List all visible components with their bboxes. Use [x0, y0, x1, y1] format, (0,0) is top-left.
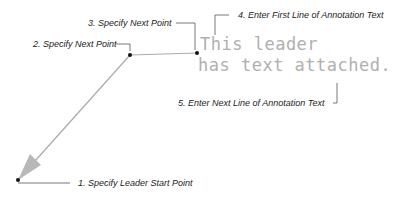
- start-point: [16, 178, 20, 182]
- callout-line-3: [176, 23, 195, 50]
- step-3-label: 3. Specify Next Point: [88, 18, 172, 28]
- leader-segment-2: [130, 53, 197, 55]
- callout-line-2: [115, 44, 130, 51]
- step-5-label: 5. Enter Next Line of Annotation Text: [178, 98, 325, 108]
- step-1-label: 1. Specify Leader Start Point: [78, 178, 193, 188]
- annotation-line-1: This leader: [200, 34, 318, 54]
- leader-diagram: 1. Specify Leader Start Point 2. Specify…: [0, 0, 408, 201]
- callout-line-4: [215, 15, 229, 35]
- step-2-label: 2. Specify Next Point: [32, 39, 117, 49]
- callout-line-5: [333, 83, 337, 103]
- step-4-label: 4. Enter First Line of Annotation Text: [238, 10, 384, 20]
- point-2: [128, 53, 132, 57]
- annotation-line-2: has text attached.: [198, 55, 391, 75]
